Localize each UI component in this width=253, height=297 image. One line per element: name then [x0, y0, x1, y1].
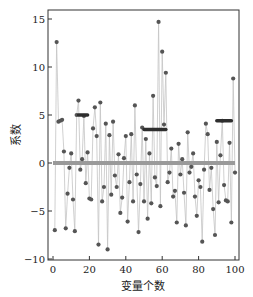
data-point — [126, 219, 130, 223]
data-point — [198, 185, 202, 189]
data-point — [204, 122, 208, 126]
data-point — [116, 152, 120, 156]
x-tick-label: 0 — [50, 264, 56, 275]
data-point — [71, 197, 75, 201]
data-point — [227, 141, 231, 145]
group-mean-segments — [78, 115, 231, 129]
data-point — [217, 200, 221, 204]
data-point — [80, 157, 84, 161]
data-point — [156, 20, 160, 24]
data-point — [213, 233, 217, 237]
data-point — [124, 134, 128, 138]
data-point — [151, 94, 155, 98]
data-point — [104, 122, 108, 126]
data-point — [53, 228, 57, 232]
data-point — [91, 126, 95, 130]
data-point — [191, 151, 195, 155]
data-point — [218, 153, 222, 157]
data-point — [171, 195, 175, 199]
data-point — [120, 195, 124, 199]
data-point — [142, 199, 146, 203]
data-point — [226, 199, 230, 203]
x-axis-label: 变量个数 — [121, 279, 165, 293]
data-point — [202, 168, 206, 172]
y-axis-label: 系数 — [10, 124, 23, 146]
data-point — [93, 105, 97, 109]
data-point — [60, 118, 64, 122]
data-point — [173, 189, 177, 193]
x-tick-label: 80 — [192, 264, 205, 275]
data-point — [136, 230, 140, 234]
data-point — [144, 137, 148, 141]
data-point — [69, 151, 73, 155]
data-point — [149, 201, 153, 205]
y-tick-label: 10 — [32, 62, 45, 73]
data-point — [184, 223, 188, 227]
data-point — [84, 181, 88, 185]
data-point — [107, 133, 111, 137]
data-point — [176, 142, 180, 146]
data-point — [229, 220, 233, 224]
data-point — [55, 40, 59, 44]
data-point — [89, 197, 93, 201]
data-point — [100, 199, 104, 203]
data-point — [67, 166, 71, 170]
data-point — [85, 150, 89, 154]
data-point — [169, 147, 173, 151]
data-point — [98, 100, 102, 104]
data-point — [127, 180, 131, 184]
data-point — [96, 243, 100, 247]
y-tick-label: −10 — [24, 254, 45, 265]
data-point — [113, 173, 117, 177]
data-point — [197, 178, 201, 182]
data-point — [78, 168, 82, 172]
data-point — [186, 130, 190, 134]
data-point — [153, 175, 157, 179]
data-point — [222, 183, 226, 187]
data-point — [73, 229, 77, 233]
data-point — [138, 182, 142, 186]
data-point — [215, 140, 219, 144]
coefficient-chart: 020406080100 −10−5051015 变量个数 系数 — [0, 0, 253, 297]
data-point — [122, 156, 126, 160]
data-point — [115, 185, 119, 189]
data-point — [209, 166, 213, 170]
data-point — [76, 99, 80, 103]
data-point — [147, 151, 151, 155]
data-point — [182, 191, 186, 195]
data-point — [109, 193, 113, 197]
data-point — [200, 240, 204, 244]
data-point — [158, 204, 162, 208]
data-point — [146, 217, 150, 221]
data-point — [231, 76, 235, 80]
data-point — [233, 171, 237, 175]
data-point — [193, 195, 197, 199]
data-point — [211, 207, 215, 211]
data-point — [131, 199, 135, 203]
y-tick-label: −5 — [30, 206, 45, 217]
y-tick-label: 15 — [32, 14, 45, 25]
data-point — [95, 134, 99, 138]
data-point — [106, 247, 110, 251]
data-point — [133, 103, 137, 107]
data-point — [175, 220, 179, 224]
y-tick-label: 0 — [39, 158, 45, 169]
data-point — [178, 172, 182, 176]
data-point — [160, 50, 164, 54]
data-point — [162, 123, 166, 127]
data-point — [102, 185, 106, 189]
data-point — [129, 132, 133, 136]
data-point — [111, 120, 115, 124]
data-point — [167, 171, 171, 175]
data-point — [65, 192, 69, 196]
data-point — [207, 188, 211, 192]
data-point — [135, 172, 139, 176]
data-point — [195, 214, 199, 218]
data-point — [187, 171, 191, 175]
x-tick-label: 20 — [83, 264, 96, 275]
data-point — [155, 184, 159, 188]
x-tick-label: 100 — [225, 264, 244, 275]
data-point — [166, 180, 170, 184]
data-point — [189, 165, 193, 169]
coefficient-points — [53, 20, 237, 252]
